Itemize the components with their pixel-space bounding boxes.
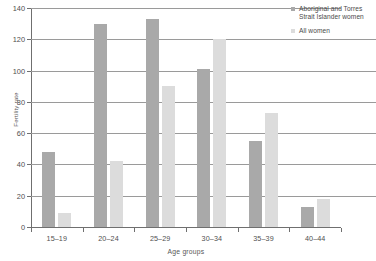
x-tick-mark [134,228,135,232]
bar-group [31,8,83,227]
bar [42,152,55,227]
y-tick-label: 100 [0,67,25,74]
x-tick-cell [134,228,186,232]
legend-item-indigenous: Aboriginal and Torres Strait Islander wo… [291,5,376,21]
x-tick-mark [341,228,342,232]
x-tick-label: 35–39 [238,234,290,243]
legend-swatch-icon-series-1 [291,7,295,11]
bar [317,199,330,227]
x-tick-label: 30–34 [186,234,238,243]
chart-legend: Aboriginal and Torres Strait Islander wo… [291,5,376,42]
y-tick-label: 40 [0,161,25,168]
x-tick-label: 25–29 [134,234,186,243]
x-tick-label: 15–19 [31,234,83,243]
x-tick-cell [186,228,238,232]
bar [249,141,262,227]
fertility-rate-bar-chart: Fertility rate 020406080100120140 15–192… [0,0,376,261]
bar-group [186,8,238,227]
bar [94,24,107,227]
x-axis-ticks [31,228,341,232]
bar [58,213,71,227]
x-tick-mark [238,228,239,232]
y-tick-label: 140 [0,5,25,12]
bar-group [83,8,135,227]
x-tick-label: 40–44 [289,234,341,243]
x-tick-cell [289,228,341,232]
x-tick-mark [289,228,290,232]
legend-item-all-women: All women [291,27,376,35]
y-tick-label: 0 [0,224,25,231]
legend-label-series-2: All women [299,27,330,35]
bar [110,161,123,227]
y-tick-label: 60 [0,130,25,137]
bar-group [134,8,186,227]
x-tick-cell [238,228,290,232]
x-axis-title: Age groups [31,248,341,255]
y-tick-label: 80 [0,98,25,105]
x-tick-mark [31,228,32,232]
x-axis-labels: 15–1920–2425–2930–3435–3940–44 [31,234,341,243]
x-tick-mark [83,228,84,232]
legend-label-series-1-line2: Strait Islander women [299,13,364,20]
bar [301,207,314,227]
x-tick-cell [31,228,83,232]
y-tick-label: 20 [0,192,25,199]
x-tick-label: 20–24 [83,234,135,243]
bar [146,19,159,227]
bar [213,39,226,227]
bar [162,86,175,227]
x-tick-mark [186,228,187,232]
bar-group [238,8,290,227]
bar [197,69,210,227]
legend-swatch-icon-series-2 [291,29,295,33]
x-tick-cell [83,228,135,232]
y-tick-label: 120 [0,36,25,43]
legend-label-series-1-line1: Aboriginal and Torres [299,5,362,12]
bar [265,113,278,227]
legend-label-series-1: Aboriginal and Torres Strait Islander wo… [299,5,364,21]
